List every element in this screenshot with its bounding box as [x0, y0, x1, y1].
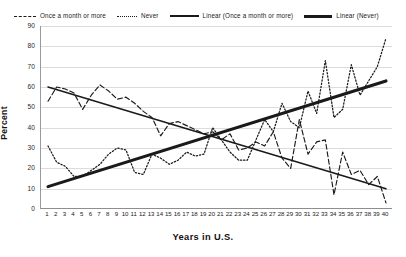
x-axis-tick: 5	[80, 211, 83, 217]
x-axis-tick: 37	[356, 211, 363, 217]
x-axis-tick: 33	[321, 211, 328, 217]
y-axis-tick: 50	[27, 104, 35, 111]
y-axis-tick: 10	[27, 185, 35, 192]
x-axis-tick: 18	[191, 211, 198, 217]
legend-item-never: Never	[117, 9, 159, 23]
legend-item-linear-once-a-month-or-more: Linear (Once a month or more)	[170, 9, 294, 23]
x-axis-tick: 35	[338, 211, 345, 217]
x-axis-tick: 28	[278, 211, 285, 217]
x-axis-tick: 4	[71, 211, 74, 217]
x-axis-tick: 21	[217, 211, 224, 217]
legend-label: Linear (Once a month or more)	[203, 13, 294, 19]
x-axis-tick: 36	[347, 211, 354, 217]
series-1	[48, 38, 386, 176]
series-3	[48, 81, 386, 187]
plot-area	[40, 26, 392, 209]
x-axis-tick: 19	[200, 211, 207, 217]
x-axis-tick: 13	[148, 211, 155, 217]
x-axis-tick: 39	[373, 211, 380, 217]
x-axis-tick: 3	[63, 211, 66, 217]
x-axis-tick: 10	[122, 211, 129, 217]
x-axis-tick: 34	[330, 211, 337, 217]
x-axis-tick: 14	[156, 211, 163, 217]
y-axis-tick: 90	[27, 23, 35, 30]
x-axis-tick: 11	[131, 211, 137, 217]
x-axis-tick: 7	[97, 211, 100, 217]
x-axis-tick: 9	[115, 211, 118, 217]
x-axis-tick: 30	[295, 211, 302, 217]
x-axis-tick: 8	[106, 211, 109, 217]
y-axis-tick: 70	[27, 63, 35, 70]
x-axis-tick: 6	[89, 211, 92, 217]
dotted-line-swatch-icon	[117, 16, 137, 17]
y-axis-title: Percent	[0, 106, 9, 140]
x-axis-tick: 32	[312, 211, 319, 217]
y-axis-tick: 0	[31, 206, 35, 213]
x-axis-tick: 31	[304, 211, 311, 217]
x-axis-tick: 22	[226, 211, 233, 217]
thick-solid-line-swatch-icon	[304, 15, 332, 18]
x-axis-tick: 17	[182, 211, 189, 217]
x-axis-tick: 29	[286, 211, 293, 217]
legend-label: Never	[141, 13, 159, 19]
y-axis-tick-labels: 9080706050403020100	[14, 26, 38, 209]
series-lines	[41, 26, 393, 209]
x-axis-tick: 2	[54, 211, 57, 217]
x-axis-tick: 20	[208, 211, 215, 217]
y-axis-tick: 20	[27, 165, 35, 172]
legend-label: Linear (Never)	[336, 13, 378, 19]
y-axis-tick: 30	[27, 145, 35, 152]
y-axis-tick: 40	[27, 124, 35, 131]
dashed-line-swatch-icon	[14, 16, 36, 17]
chart-legend: Once a month or more Never Linear (Once …	[0, 9, 406, 23]
x-axis-tick: 23	[234, 211, 241, 217]
y-axis-tick: 60	[27, 84, 35, 91]
x-axis-tick: 26	[260, 211, 267, 217]
x-axis-tick: 16	[174, 211, 181, 217]
x-axis-tick: 25	[252, 211, 259, 217]
solid-line-swatch-icon	[170, 15, 199, 17]
x-axis-tick: 12	[139, 211, 146, 217]
series-2	[48, 87, 386, 189]
x-axis-tick: 40	[382, 211, 389, 217]
x-axis-tick: 27	[269, 211, 276, 217]
x-axis-tick-labels: 1234567891011121314151617181920212223242…	[40, 211, 392, 222]
legend-item-linear-never: Linear (Never)	[304, 9, 378, 23]
x-axis-title: Years in U.S.	[0, 232, 406, 242]
y-axis-tick: 80	[27, 43, 35, 50]
x-axis-tick: 38	[364, 211, 371, 217]
legend-label: Once a month or more	[40, 13, 106, 19]
x-axis-tick: 15	[165, 211, 172, 217]
x-axis-tick: 24	[243, 211, 250, 217]
x-axis-tick: 1	[45, 211, 48, 217]
plot-area-wrapper: Percent 9080706050403020100	[0, 26, 406, 209]
chart-container: Once a month or more Never Linear (Once …	[0, 0, 406, 257]
